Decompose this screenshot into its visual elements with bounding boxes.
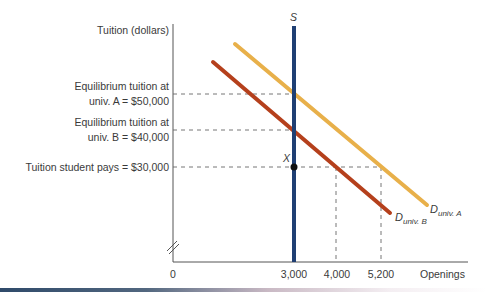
y-label-student-pays: Tuition student pays = $30,000 xyxy=(25,161,169,173)
demand-label-univ-b-sub: univ. B xyxy=(403,217,427,226)
y-label-univ-a-line1: Equilibrium tuition at xyxy=(74,80,169,92)
point-x-marker xyxy=(291,164,298,171)
y-label-univ-b-line1: Equilibrium tuition at xyxy=(74,116,169,128)
x-tick-5200: 5,200 xyxy=(368,268,394,280)
demand-label-univ-a-sub: univ. A xyxy=(438,209,462,218)
point-x-label: X xyxy=(283,152,290,164)
bottom-divider-bar xyxy=(0,288,487,292)
x-tick-4000: 4,000 xyxy=(324,268,350,280)
y-label-univ-a-line2: univ. A = $50,000 xyxy=(74,95,169,107)
y-axis-title: Tuition (dollars) xyxy=(97,24,169,36)
demand-label-univ-a-main: D xyxy=(430,203,438,215)
demand-label-univ-b: Duniv. B xyxy=(395,211,427,226)
demand-label-univ-a: Duniv. A xyxy=(430,203,462,218)
demand-curve-univ-b xyxy=(213,62,390,213)
x-tick-3000: 3,000 xyxy=(281,268,307,280)
demand-label-univ-b-main: D xyxy=(395,211,403,223)
y-label-univ-b-line2: univ. B = $40,000 xyxy=(74,131,169,143)
supply-label: S xyxy=(290,11,297,23)
chart-plot xyxy=(0,0,487,295)
demand-curve-univ-a xyxy=(235,44,427,205)
tuition-supply-demand-chart: Tuition (dollars) Equilibrium tuition at… xyxy=(0,0,487,295)
y-label-univ-b: Equilibrium tuition at univ. B = $40,000 xyxy=(74,116,169,143)
origin-label: 0 xyxy=(170,268,176,280)
x-axis-title: Openings xyxy=(420,268,465,280)
y-label-univ-a: Equilibrium tuition at univ. A = $50,000 xyxy=(74,80,169,107)
